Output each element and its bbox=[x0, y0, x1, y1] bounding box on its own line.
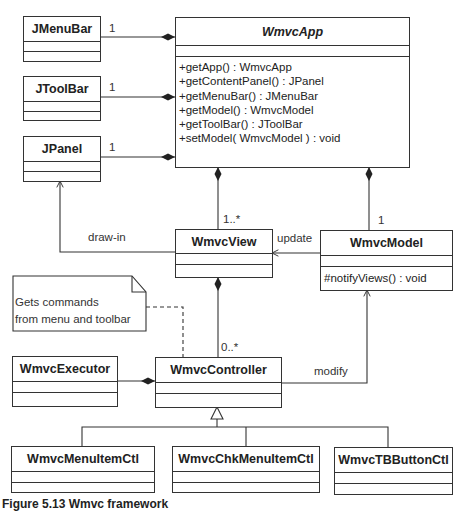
methods-compartment bbox=[176, 265, 272, 276]
methods-compartment bbox=[13, 393, 117, 405]
method: +setModel( WmvcModel ) : void bbox=[179, 131, 409, 145]
class-name: WmvcModel bbox=[321, 231, 452, 256]
class-name: WmvcController bbox=[156, 358, 281, 383]
class-name: JToolBar bbox=[24, 77, 100, 102]
methods-compartment bbox=[24, 52, 100, 61]
class-jpanel: JPanel bbox=[23, 136, 101, 182]
label-update: update bbox=[277, 232, 312, 244]
class-jtoolbar: JToolBar bbox=[23, 76, 101, 121]
class-wmvcview: WmvcView bbox=[175, 229, 273, 278]
methods-compartment bbox=[335, 484, 452, 493]
multiplicity-toolbar: 1 bbox=[109, 81, 115, 93]
multiplicity-controller: 0..* bbox=[221, 341, 238, 353]
methods-compartment bbox=[24, 112, 100, 120]
methods-compartment bbox=[156, 394, 281, 406]
class-wmvcexecutor: WmvcExecutor bbox=[12, 356, 118, 407]
label-draw-in: draw-in bbox=[88, 231, 126, 243]
multiplicity-panel: 1 bbox=[109, 141, 115, 153]
method: +getToolBar() : JToolBar bbox=[179, 117, 409, 131]
class-name: WmvcApp bbox=[176, 18, 409, 46]
class-name: WmvcTBButtonCtl bbox=[335, 448, 452, 473]
methods-compartment: +getApp() : WmvcApp +getContentPanel() :… bbox=[176, 57, 409, 146]
class-wmvcapp: WmvcApp +getApp() : WmvcApp +getContentP… bbox=[175, 17, 410, 168]
multiplicity-menubar: 1 bbox=[109, 22, 115, 34]
attributes-compartment bbox=[13, 382, 117, 393]
attributes-compartment bbox=[12, 472, 154, 483]
method: +getModel() : WmvcModel bbox=[179, 103, 409, 117]
methods-compartment: #notifyViews() : void bbox=[321, 267, 452, 285]
figure-caption: Figure 5.13 Wmvc framework bbox=[2, 497, 168, 511]
class-wmvcmenuitemctl: WmvcMenuItemCtl bbox=[11, 446, 155, 493]
class-name: WmvcChkMenuItemCtl bbox=[173, 447, 319, 472]
label-modify: modify bbox=[314, 365, 348, 377]
class-wmvctbbuttonctl: WmvcTBButtonCtl bbox=[334, 447, 453, 495]
method: #notifyViews() : void bbox=[324, 271, 452, 285]
class-name: WmvcMenuItemCtl bbox=[12, 447, 154, 472]
class-wmvcchkmenuitemctl: WmvcChkMenuItemCtl bbox=[172, 446, 320, 493]
class-name: JPanel bbox=[24, 137, 100, 162]
class-jmenubar: JMenuBar bbox=[23, 16, 101, 62]
methods-compartment bbox=[12, 483, 154, 491]
attributes-compartment bbox=[24, 162, 100, 172]
attributes-compartment bbox=[173, 472, 319, 483]
attributes-compartment bbox=[321, 256, 452, 267]
attributes-compartment bbox=[24, 42, 100, 52]
multiplicity-model: 1 bbox=[378, 214, 384, 226]
class-wmvccontroller: WmvcController bbox=[155, 357, 282, 408]
class-name: WmvcExecutor bbox=[13, 357, 117, 382]
note-link bbox=[146, 307, 183, 357]
methods-compartment bbox=[173, 483, 319, 491]
attributes-compartment bbox=[176, 254, 272, 265]
method: +getMenuBar() : JMenuBar bbox=[179, 89, 409, 103]
class-name: JMenuBar bbox=[24, 17, 100, 42]
multiplicity-view: 1..* bbox=[223, 213, 240, 225]
method: +getContentPanel() : JPanel bbox=[179, 74, 409, 88]
methods-compartment bbox=[24, 172, 100, 181]
attributes-compartment bbox=[176, 46, 409, 57]
class-wmvcmodel: WmvcModel #notifyViews() : void bbox=[320, 230, 453, 291]
attributes-compartment bbox=[335, 473, 452, 484]
note-text: Gets commands from menu and toolbar bbox=[15, 294, 131, 328]
generalization-branches bbox=[82, 427, 388, 447]
attributes-compartment bbox=[24, 102, 100, 112]
class-name: WmvcView bbox=[176, 230, 272, 254]
method: +getApp() : WmvcApp bbox=[179, 60, 409, 74]
attributes-compartment bbox=[156, 383, 281, 394]
